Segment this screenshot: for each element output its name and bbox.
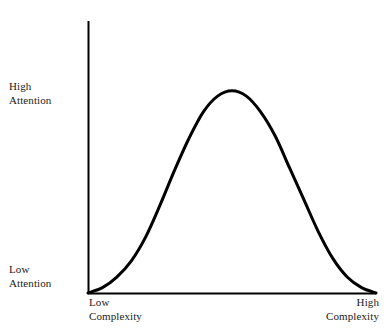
y-axis-label-low-line2: Attention: [9, 277, 51, 291]
x-axis-label-low-line1: Low: [89, 296, 142, 310]
y-axis-label-high: High Attention: [9, 80, 51, 107]
x-axis-label-low-line2: Complexity: [89, 310, 142, 324]
attention-complexity-curve: [88, 91, 376, 293]
x-axis-label-high-line2: Complexity: [326, 310, 379, 324]
y-axis-label-high-line1: High: [9, 80, 51, 94]
chart-plot-area: [0, 0, 389, 331]
series-group: [88, 91, 376, 293]
x-axis-label-high: High Complexity: [326, 296, 379, 323]
axes-group: [88, 21, 376, 294]
y-axis-label-low: Low Attention: [9, 263, 51, 290]
y-axis-label-high-line2: Attention: [9, 94, 51, 108]
y-axis-label-low-line1: Low: [9, 263, 51, 277]
x-axis-label-high-line1: High: [326, 296, 379, 310]
chart-container: High Attention Low Attention Low Complex…: [0, 0, 389, 331]
x-axis-label-low: Low Complexity: [89, 296, 142, 323]
